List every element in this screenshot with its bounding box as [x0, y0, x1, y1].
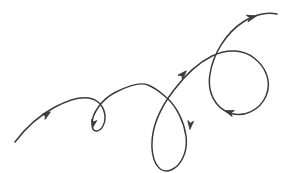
looping-arrow-curve: [0, 0, 287, 173]
canvas-background: [0, 0, 287, 173]
drawing-canvas: [0, 0, 287, 173]
